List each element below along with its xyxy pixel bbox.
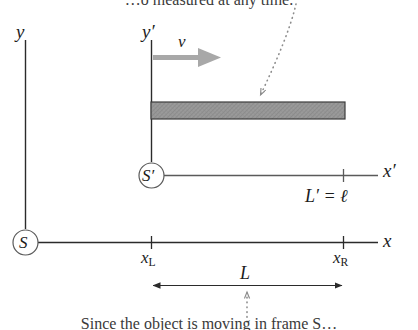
proper-length-label: L′ = ℓ (305, 187, 348, 205)
figure-canvas (0, 0, 418, 330)
top-caption-leader (261, 4, 296, 94)
measured-length-label: L (240, 264, 250, 282)
velocity-arrow (153, 48, 221, 67)
frame-s-axes (13, 40, 378, 255)
yprime-axis-label: y′ (142, 22, 155, 41)
x-right-tick-label: xR (333, 249, 348, 269)
x-axis-label: x (383, 231, 391, 250)
frame-sprime-origin-label: S′ (142, 166, 154, 186)
xprime-axis-label: x′ (383, 161, 396, 180)
bottom-caption: Since the object is moving in frame S… (0, 315, 418, 330)
x-right-tick-label-subscript: R (341, 256, 349, 269)
length-contraction-figure: y y′ v x′ x L′ = ℓ xL xR L S S′ …o measu… (0, 0, 418, 330)
moving-object-bar (151, 102, 345, 119)
velocity-arrow-head (198, 48, 221, 67)
x-left-tick-label: xL (141, 249, 156, 269)
x-left-tick-label-base: x (141, 248, 149, 267)
velocity-label: v (178, 33, 186, 50)
top-caption-leader-line (261, 4, 296, 94)
moving-object-bar-hatch-overlay (151, 102, 345, 119)
x-left-tick-label-subscript: L (149, 256, 156, 269)
frame-s-origin-label: S (19, 233, 28, 253)
x-right-tick-label-base: x (333, 248, 341, 267)
y-axis-label: y (16, 22, 24, 41)
top-caption: …o measured at any time. (0, 0, 418, 9)
